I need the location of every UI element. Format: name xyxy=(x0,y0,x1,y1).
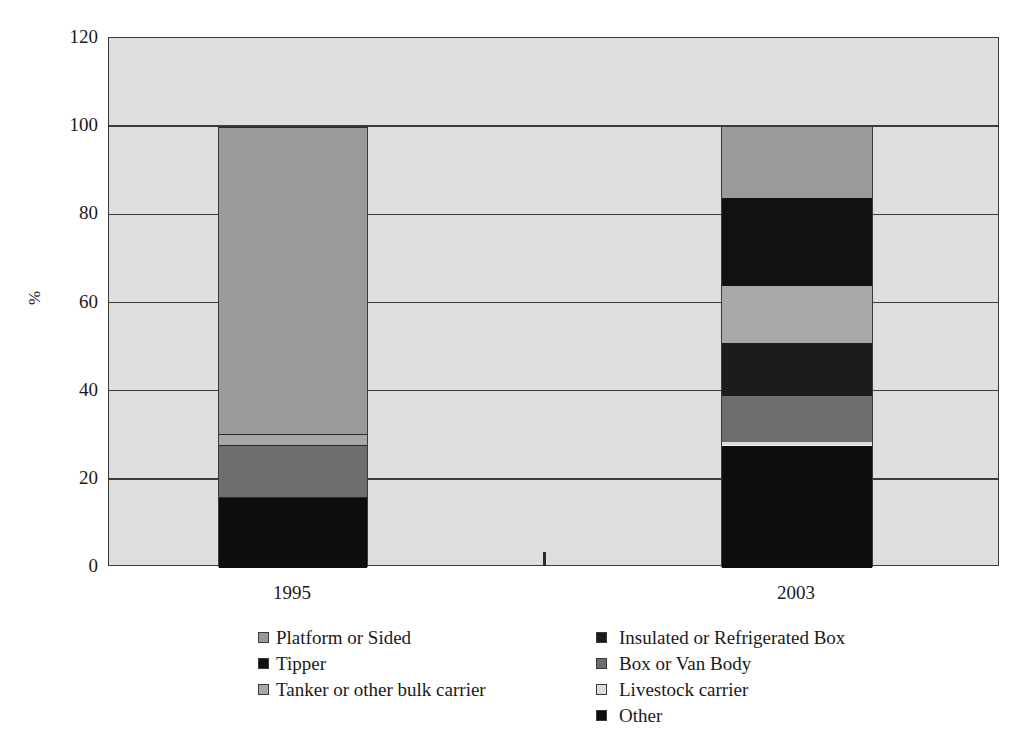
plot-area xyxy=(108,37,999,566)
y-axis-tick-labels: 120100806040200 xyxy=(36,0,98,743)
legend-swatch-icon xyxy=(596,684,607,695)
bar-segment xyxy=(722,343,872,396)
legend-item-label: Tipper xyxy=(276,654,326,673)
legend-item[interactable]: Box or Van Body xyxy=(596,650,845,676)
bar-1995 xyxy=(218,126,368,567)
y-axis-tick-label: 20 xyxy=(42,468,98,487)
y-axis-tick-label: 60 xyxy=(42,292,98,311)
y-axis-tick-label: 120 xyxy=(42,27,98,46)
legend-item[interactable]: Tanker or other bulk carrier xyxy=(258,676,486,702)
legend-swatch-icon xyxy=(596,658,607,669)
legend: Platform or SidedTipperTanker or other b… xyxy=(258,624,958,734)
bar-segment xyxy=(722,442,872,445)
legend-item-label: Other xyxy=(619,706,662,725)
legend-column-left: Platform or SidedTipperTanker or other b… xyxy=(258,624,486,702)
x-axis-tick-label: 2003 xyxy=(736,582,856,604)
bar-segment xyxy=(722,127,872,198)
legend-item-label: Tanker or other bulk carrier xyxy=(276,680,486,699)
x-axis-tick-label: 1995 xyxy=(232,582,352,604)
bar-segment xyxy=(722,445,872,568)
y-axis-tick-label: 40 xyxy=(42,380,98,399)
bar-segment xyxy=(219,434,367,445)
y-axis-tick-label: 100 xyxy=(42,115,98,134)
legend-item[interactable]: Insulated or Refrigerated Box xyxy=(596,624,845,650)
y-axis-tick-label: 80 xyxy=(42,203,98,222)
legend-item[interactable]: Tipper xyxy=(258,650,486,676)
legend-swatch-icon xyxy=(258,684,269,695)
legend-swatch-icon xyxy=(596,632,607,643)
legend-column-right: Insulated or Refrigerated BoxBox or Van … xyxy=(596,624,845,728)
y-axis-tick-label: 0 xyxy=(42,556,98,575)
bar-segment xyxy=(219,445,367,498)
bar-segment xyxy=(722,396,872,442)
legend-swatch-icon xyxy=(258,658,269,669)
legend-item-label: Platform or Sided xyxy=(276,628,411,647)
legend-swatch-icon xyxy=(596,710,607,721)
legend-item[interactable]: Platform or Sided xyxy=(258,624,486,650)
bar-segment xyxy=(219,127,367,433)
legend-item-label: Livestock carrier xyxy=(619,680,748,699)
legend-item-label: Insulated or Refrigerated Box xyxy=(619,628,845,647)
bar-segment xyxy=(219,497,367,568)
legend-item-label: Box or Van Body xyxy=(619,654,751,673)
bar-segment xyxy=(722,198,872,286)
legend-item[interactable]: Livestock carrier xyxy=(596,676,845,702)
bar-segment xyxy=(722,286,872,343)
legend-swatch-icon xyxy=(258,632,269,643)
stacked-bar-chart: % 120100806040200 19952003 Platform or S… xyxy=(0,0,1019,743)
bar-2003 xyxy=(721,126,873,567)
legend-item[interactable]: Other xyxy=(596,702,845,728)
axis-mid-tick xyxy=(543,552,546,566)
